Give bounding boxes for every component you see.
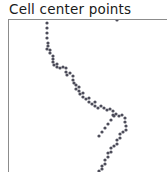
data-point <box>96 106 99 109</box>
data-point <box>77 85 80 88</box>
data-point <box>51 57 54 60</box>
data-point <box>103 158 106 161</box>
data-point <box>48 51 51 54</box>
data-point <box>112 144 115 147</box>
data-point <box>74 87 77 90</box>
plot-frame <box>8 19 167 172</box>
data-point <box>115 20 118 22</box>
data-point <box>109 146 112 149</box>
data-point <box>65 73 68 76</box>
data-point <box>120 113 123 116</box>
data-point <box>48 48 51 51</box>
data-point <box>99 104 102 107</box>
data-point <box>93 104 96 107</box>
data-point <box>103 162 106 165</box>
data-point <box>118 132 121 135</box>
scatter-plot-figure: Cell center points <box>0 0 167 172</box>
data-point <box>55 62 58 65</box>
data-point <box>106 151 109 154</box>
data-point <box>64 70 67 73</box>
data-point <box>93 100 96 103</box>
data-point <box>106 155 109 158</box>
data-point <box>108 107 111 110</box>
plot-area <box>9 20 167 172</box>
data-point <box>100 130 103 133</box>
data-point <box>100 167 103 170</box>
data-point <box>68 71 71 74</box>
data-point <box>87 100 90 103</box>
data-point <box>77 89 80 92</box>
data-point <box>74 83 77 86</box>
data-point <box>71 74 74 77</box>
data-point <box>118 136 121 139</box>
data-point <box>106 122 109 125</box>
data-point <box>87 96 90 99</box>
page-title: Cell center points <box>9 0 167 18</box>
data-point <box>90 102 93 105</box>
data-point <box>45 47 48 50</box>
data-point <box>109 118 112 121</box>
data-point <box>58 66 61 69</box>
data-point <box>52 63 55 66</box>
data-point <box>115 138 118 141</box>
data-point <box>61 65 64 68</box>
data-point <box>97 134 100 137</box>
data-point <box>51 54 54 57</box>
data-point <box>121 130 124 133</box>
data-points-layer <box>9 20 167 172</box>
data-point <box>123 120 126 123</box>
data-point <box>81 95 84 98</box>
data-point <box>100 164 103 167</box>
data-point <box>46 44 49 47</box>
data-point <box>71 78 74 81</box>
data-point <box>78 92 81 95</box>
data-point <box>109 150 112 153</box>
data-point <box>45 36 48 39</box>
data-point <box>81 91 84 94</box>
data-point <box>46 41 49 44</box>
data-point <box>112 114 115 117</box>
data-point <box>55 65 58 68</box>
data-point <box>124 124 127 127</box>
data-point <box>111 109 114 112</box>
data-point <box>97 169 100 172</box>
data-point <box>84 97 87 100</box>
data-point <box>105 108 108 111</box>
data-point <box>64 66 67 69</box>
data-point <box>45 31 48 34</box>
data-point <box>45 26 48 29</box>
data-point <box>45 21 48 24</box>
data-point <box>115 142 118 145</box>
data-point <box>51 60 54 63</box>
data-point <box>117 114 120 117</box>
data-point <box>123 116 126 119</box>
data-point <box>103 126 106 129</box>
data-point <box>124 128 127 131</box>
data-point <box>102 106 105 109</box>
